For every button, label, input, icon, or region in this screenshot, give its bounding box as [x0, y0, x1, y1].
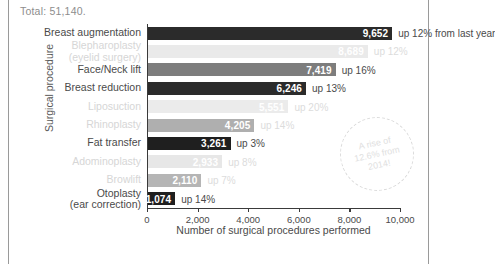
x-axis-tick [198, 208, 199, 212]
table-row[interactable]: Breast reduction6,246up 13% [147, 81, 400, 96]
bar[interactable]: 2,933 [148, 155, 222, 168]
bar[interactable]: 5,551 [148, 100, 288, 113]
bar-value-label: 5,551 [259, 101, 285, 112]
bar-change-note: up 12% from last year [398, 28, 495, 39]
bar-change-note: up 12% [374, 46, 408, 57]
bar[interactable]: 3,261 [148, 137, 231, 150]
bar[interactable]: 7,419 [148, 63, 336, 76]
bar-value-label: 3,261 [201, 138, 227, 149]
bar-value-label: 2,110 [172, 175, 197, 186]
x-axis-tick [248, 208, 249, 212]
rise-callout-text: A rise of 12.6% from 2014! [351, 133, 403, 175]
page-right-rule [428, 0, 429, 264]
category-label: Breast augmentation [44, 27, 141, 39]
bar-change-note: up 16% [342, 64, 376, 75]
bar-change-note: up 13% [312, 83, 346, 94]
bar[interactable]: 2,110 [148, 174, 201, 187]
x-axis-tick [147, 208, 148, 212]
bar-value-label: 1,074 [146, 193, 172, 204]
category-label: Adominoplasty [72, 156, 141, 168]
bar-value-label: 4,205 [225, 120, 251, 131]
bar-change-note: up 8% [228, 156, 256, 167]
category-label: Blepharoplasty(eyelid surgery) [69, 40, 141, 63]
bar[interactable]: 6,246 [148, 82, 306, 95]
bar[interactable]: 4,205 [148, 119, 254, 132]
x-axis-tick [400, 208, 401, 212]
table-row[interactable]: Breast augmentation9,652up 12% from last… [147, 26, 400, 41]
bar-value-label: 9,652 [363, 28, 389, 39]
x-axis-tick [299, 208, 300, 212]
x-axis-tick [349, 208, 350, 212]
table-row[interactable]: Face/Neck lift7,419up 16% [147, 62, 400, 77]
bar[interactable]: 9,652 [148, 27, 392, 40]
category-label: Otoplasty(ear correction) [70, 187, 141, 210]
rise-callout-bubble: A rise of 12.6% from 2014! [340, 117, 414, 191]
bar-change-note: up 14% [260, 120, 294, 131]
category-label: Face/Neck lift [77, 64, 141, 76]
bar-value-label: 7,419 [306, 64, 332, 75]
category-label: Fat transfer [87, 138, 141, 150]
bar-change-note: up 7% [207, 175, 235, 186]
bar[interactable]: 8,689 [148, 45, 368, 58]
x-axis: 02,0004,0006,0008,00010,000 [147, 208, 400, 209]
bar-change-note: up 14% [181, 193, 215, 204]
x-axis-title: Number of surgical procedures performed [147, 224, 400, 236]
category-label: Liposuction [88, 101, 141, 113]
bar-change-note: up 20% [294, 101, 328, 112]
category-label: Browlift [107, 174, 141, 186]
category-label: Breast reduction [65, 82, 141, 94]
bar[interactable]: 1,074 [148, 192, 175, 205]
page-left-rule [8, 0, 9, 264]
bar-value-label: 8,689 [338, 46, 364, 57]
table-row[interactable]: Blepharoplasty(eyelid surgery)8,689up 12… [147, 44, 400, 59]
table-row[interactable]: Otoplasty(ear correction)1,074up 14% [147, 191, 400, 206]
bar-value-label: 2,933 [193, 156, 219, 167]
category-label: Rhinoplasty [86, 119, 141, 131]
bar-value-label: 6,246 [276, 83, 302, 94]
table-row[interactable]: Liposuction5,551up 20% [147, 99, 400, 114]
bar-change-note: up 3% [237, 138, 265, 149]
